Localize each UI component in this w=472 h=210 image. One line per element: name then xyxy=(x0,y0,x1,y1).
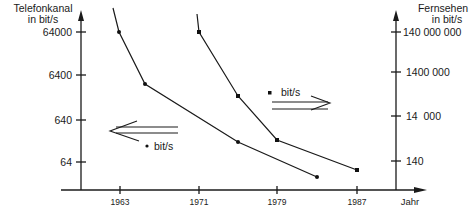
left-axis-title-line2: in bit/s xyxy=(28,13,58,25)
legend-telefonkanal: bit/s xyxy=(110,121,178,152)
series-fernsehen xyxy=(197,14,359,172)
square-marker-icon xyxy=(268,91,272,95)
data-point xyxy=(236,140,240,144)
x-axis xyxy=(61,186,418,194)
x-tick-label: 1987 xyxy=(348,197,367,207)
right-tick-label: 14 000 xyxy=(406,110,441,122)
right-tick-label: 1400 000 xyxy=(406,66,450,78)
legend-fernsehen: bit/s xyxy=(268,86,330,110)
double-arrow-right-icon xyxy=(272,96,330,110)
x-axis-title: Jahr xyxy=(401,196,419,207)
data-point xyxy=(117,30,121,34)
right-axis-title-line2: in bit/s xyxy=(432,13,462,25)
left-tick-label: 640 xyxy=(54,114,72,126)
right-tick-label: 140 xyxy=(406,155,424,167)
x-axis-arrow-icon xyxy=(414,187,427,193)
data-point xyxy=(315,175,319,179)
right-axis-arrow-icon xyxy=(393,10,399,21)
data-point xyxy=(143,82,147,86)
data-point xyxy=(236,94,240,98)
legend-fernsehen-label: bit/s xyxy=(281,86,300,98)
data-point xyxy=(275,138,279,142)
legend-telefonkanal-label: bit/s xyxy=(154,140,173,152)
right-axis xyxy=(391,14,401,190)
left-axis xyxy=(76,14,86,190)
x-tick-label: 1971 xyxy=(190,197,209,207)
chart: Telefonkanal in bit/s Fernsehen in bit/s… xyxy=(0,0,472,210)
dot-marker-icon xyxy=(145,144,148,147)
left-axis-arrow-icon xyxy=(78,10,84,21)
left-tick-label: 64000 xyxy=(43,26,72,38)
double-arrow-left-icon xyxy=(110,121,178,141)
x-tick-label: 1963 xyxy=(111,197,130,207)
x-tick-label: 1979 xyxy=(268,197,287,207)
data-point xyxy=(197,30,201,34)
left-tick-label: 64 xyxy=(60,156,72,168)
left-tick-label: 6400 xyxy=(49,69,73,81)
data-point xyxy=(355,168,359,172)
right-tick-label: 140 000 000 xyxy=(403,26,462,38)
